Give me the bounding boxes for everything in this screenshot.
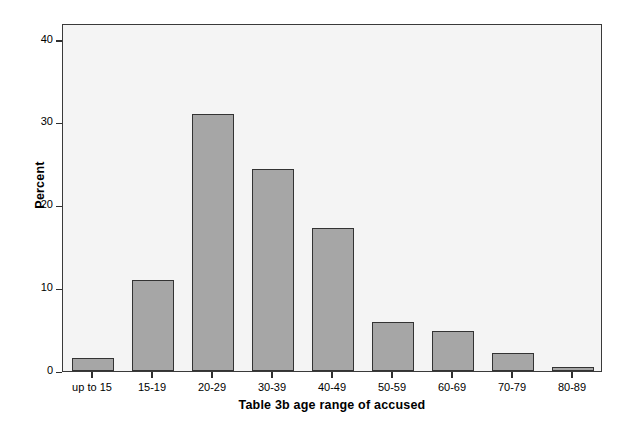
- y-tick-label: 10: [41, 281, 53, 293]
- x-tick-line: [331, 372, 333, 378]
- y-tick-label: 0: [47, 364, 53, 376]
- x-tick-line: [151, 372, 153, 378]
- bar: [192, 114, 234, 371]
- plot-area: [63, 25, 601, 371]
- x-tick-line: [391, 372, 393, 378]
- bar: [492, 353, 534, 371]
- y-tick-label: 40: [41, 33, 53, 45]
- plot-frame: [62, 24, 602, 372]
- bar: [312, 228, 354, 371]
- x-tick-line: [451, 372, 453, 378]
- bar: [252, 169, 294, 371]
- y-tick-label: 30: [41, 115, 53, 127]
- x-tick-line: [91, 372, 93, 378]
- bar: [372, 322, 414, 371]
- x-tick-line: [571, 372, 573, 378]
- bar: [72, 358, 114, 371]
- x-tick-label: 80-89: [527, 381, 617, 393]
- bar: [432, 331, 474, 371]
- x-axis-title: Table 3b age range of accused: [62, 398, 602, 412]
- bar-chart: Percent 010203040 up to 1515-1920-2930-3…: [0, 0, 620, 431]
- x-tick-line: [271, 372, 273, 378]
- x-tick-line: [211, 372, 213, 378]
- bar: [132, 280, 174, 371]
- y-tick-label: 20: [41, 198, 53, 210]
- bar: [552, 367, 594, 371]
- y-axis-title: Percent: [33, 125, 47, 245]
- x-tick-line: [511, 372, 513, 378]
